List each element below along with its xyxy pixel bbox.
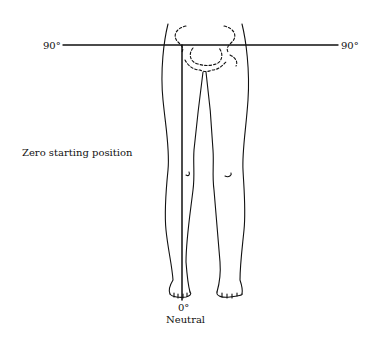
neutral-label: Neutral xyxy=(166,314,205,325)
legs-figure-drawing xyxy=(0,0,378,349)
zero-angle-label: 0° xyxy=(178,302,189,313)
right-angle-label: 90° xyxy=(341,40,359,51)
zero-starting-position-label: Zero starting position xyxy=(22,147,132,158)
left-angle-label: 90° xyxy=(43,40,61,51)
